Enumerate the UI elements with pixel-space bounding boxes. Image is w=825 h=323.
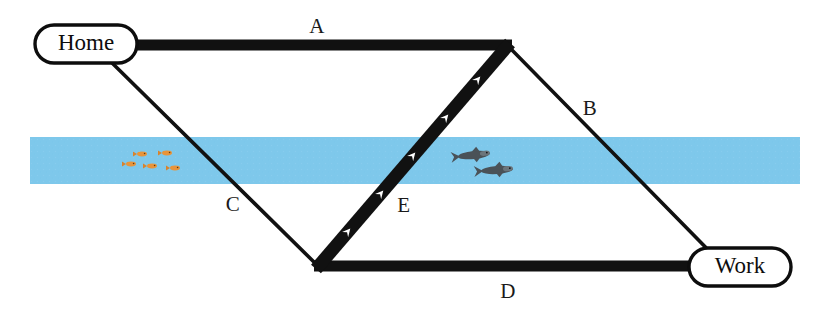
edge-label-C: C [226,192,241,216]
orange-fish-icon [137,152,147,157]
orange-fish-icon [162,151,172,156]
orange-fish-icon [126,162,136,167]
route-diagram: Home Work A B C D E [0,0,825,323]
edge-label-B: B [583,96,598,120]
node-home[interactable]: Home [35,25,137,63]
edge-label-E: E [397,193,410,217]
diagram-canvas: Home Work A B C D E [0,0,825,323]
orange-fish-icon [170,166,180,171]
orange-fish-icon [147,164,157,169]
node-work[interactable]: Work [689,248,791,286]
node-work-label: Work [715,253,766,278]
edge-label-A: A [309,14,325,38]
edge-label-D: D [500,279,516,303]
node-home-label: Home [58,30,114,55]
